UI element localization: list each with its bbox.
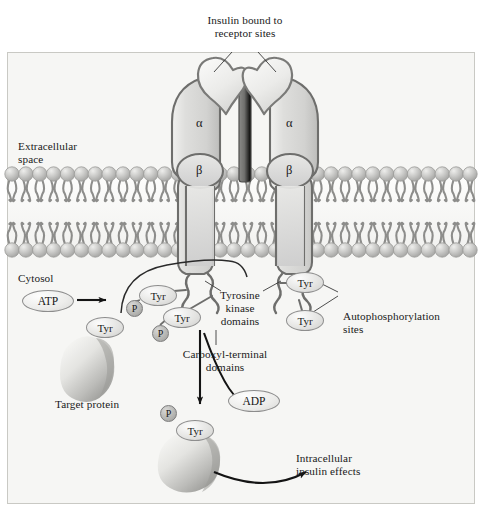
phosphate-group: P [160, 405, 177, 422]
tyr-residue-receptor-right: Tyr [286, 310, 324, 331]
phosphate-group: P [126, 300, 143, 317]
label-carboxyl-terminal-domains: Carboxyl-terminal domains [160, 348, 290, 374]
label-tyrosine-kinase-domains: Tyrosine kinase domains [196, 289, 284, 329]
label-intracellular-insulin-effects: Intracellular insulin effects [296, 452, 360, 478]
tyr-residue-receptor-right: Tyr [286, 272, 324, 293]
label-alpha-subunit-right: α [286, 117, 293, 130]
diagram-frame [7, 52, 475, 504]
label-autophosphorylation-sites: Autophosphorylation sites [343, 310, 440, 336]
tyr-residue-receptor-left: Tyr [163, 307, 201, 328]
label-insulin-bound: Insulin bound to receptor sites [183, 14, 307, 40]
label-extracellular-space: Extracellular space [18, 140, 77, 166]
tyr-residue-target-protein: Tyr [176, 420, 214, 441]
tyr-residue-receptor-left: Tyr [139, 285, 177, 306]
molecule-adp: ADP [228, 390, 280, 412]
label-cytosol: Cytosol [18, 272, 54, 285]
phosphate-group: P [152, 325, 169, 342]
label-alpha-subunit-left: α [196, 117, 203, 130]
label-beta-subunit-left: β [196, 164, 202, 177]
molecule-atp: ATP [22, 290, 74, 312]
label-beta-subunit-right: β [286, 164, 292, 177]
tyr-residue-receptor-left: Tyr [86, 317, 124, 338]
label-target-protein: Target protein [55, 398, 119, 411]
insulin-receptor-diagram: Insulin bound to receptor sites Extracel… [0, 0, 490, 517]
